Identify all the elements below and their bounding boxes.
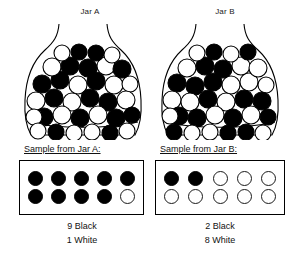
sample-b-white-count: 8 White [170, 233, 270, 247]
ball-black [74, 171, 89, 186]
ball-black [120, 171, 135, 186]
sample-b-row-1 [164, 171, 276, 186]
ball-black [188, 171, 203, 186]
ball-white [213, 171, 228, 186]
ball-black [164, 171, 179, 186]
ball-black [28, 189, 43, 204]
sample-b-box [155, 160, 285, 215]
ball-black [51, 189, 66, 204]
sample-a-label: Sample from Jar A: [24, 144, 101, 154]
sample-a-box [19, 160, 144, 215]
sample-a-counts: 9 Black 1 White [32, 219, 132, 247]
sample-b-black-count: 2 Black [170, 219, 270, 233]
ball-white [120, 189, 135, 204]
ball-black [74, 189, 89, 204]
figure-canvas: Jar A [0, 0, 297, 258]
ball-white [261, 171, 276, 186]
ball-white [237, 189, 252, 204]
jar-b-title: Jar B [190, 7, 260, 16]
jar-icon [18, 22, 148, 140]
ball-white [213, 189, 228, 204]
jar-icon [155, 22, 285, 140]
sample-b-label: Sample from Jar B: [160, 144, 237, 154]
sample-b-counts: 2 Black 8 White [170, 219, 270, 247]
jar-b-illustration [155, 22, 285, 140]
ball-black [28, 171, 43, 186]
sample-a-white-count: 1 White [32, 233, 132, 247]
ball-white [261, 189, 276, 204]
jar-a-title: Jar A [55, 7, 125, 16]
ball-white [164, 189, 179, 204]
sample-a-row-1 [28, 171, 135, 186]
ball-white [237, 171, 252, 186]
ball-black [97, 171, 112, 186]
ball-black [51, 171, 66, 186]
ball-black [97, 189, 112, 204]
jar-a-illustration [18, 22, 148, 140]
sample-b-row-2 [164, 189, 276, 204]
ball-white [188, 189, 203, 204]
sample-a-row-2 [28, 189, 135, 204]
sample-a-black-count: 9 Black [32, 219, 132, 233]
